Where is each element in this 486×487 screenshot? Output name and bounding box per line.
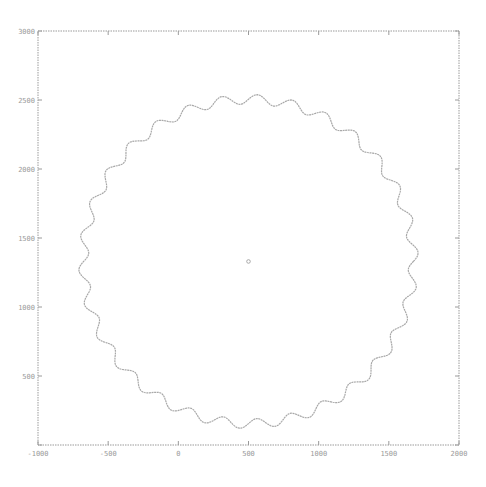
x-tick-label: 2000 <box>451 450 468 458</box>
x-tick-label: 1500 <box>380 450 397 458</box>
y-tick-label: 2000 <box>18 166 35 174</box>
x-tick-label: 500 <box>242 450 255 458</box>
axes-box <box>38 31 459 445</box>
y-tick-label: 500 <box>22 373 35 381</box>
y-tick-label: 1500 <box>18 235 35 243</box>
plot-area-frame <box>38 31 459 445</box>
chart: -1000-5000500100015002000 50010001500200… <box>0 0 486 487</box>
y-tick-label: 3000 <box>18 28 35 36</box>
x-axis-ticks: -1000-5000500100015002000 <box>27 31 467 458</box>
y-tick-label: 1000 <box>18 304 35 312</box>
y-tick-label: 2500 <box>18 97 35 105</box>
center-point-marker <box>247 260 251 264</box>
x-tick-label: 0 <box>176 450 180 458</box>
x-tick-label: -500 <box>100 450 117 458</box>
wavy-ring-curve <box>79 95 418 429</box>
x-tick-label: 1000 <box>310 450 327 458</box>
y-axis-ticks: 50010001500200025003000 <box>18 28 459 446</box>
x-tick-label: -1000 <box>27 450 48 458</box>
plot-series <box>79 95 418 429</box>
